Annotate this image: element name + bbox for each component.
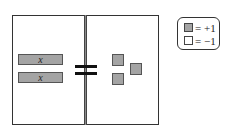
x-tile: x (18, 54, 63, 65)
white-square-icon (184, 36, 193, 45)
x-tile-label: x (38, 54, 42, 65)
x-tile: x (18, 72, 63, 83)
legend-label: = +1 (195, 22, 216, 34)
legend-label: = −1 (195, 35, 216, 47)
mat-divider (84, 15, 87, 125)
legend: = +1 = −1 (177, 17, 220, 50)
x-tile-label: x (38, 72, 42, 83)
shaded-square-icon (184, 23, 193, 32)
legend-item-negative: = −1 (184, 35, 216, 46)
unit-tile (130, 63, 142, 75)
equals-bar-bottom (75, 72, 97, 75)
equals-bar-top (75, 65, 97, 68)
unit-tile (112, 54, 124, 66)
unit-tile (112, 73, 124, 85)
legend-item-positive: = +1 (184, 22, 216, 33)
